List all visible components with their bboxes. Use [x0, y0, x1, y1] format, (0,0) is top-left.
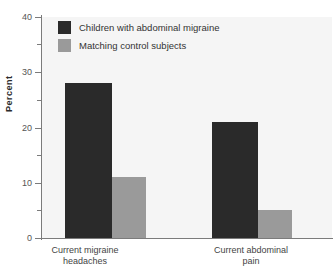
y-tick-30: [35, 72, 42, 73]
x-axis-line: [41, 238, 333, 239]
x-tick-label-group2-line2: pain: [196, 256, 306, 267]
x-tick-label-group2-line1: Current abdominal: [196, 245, 306, 256]
y-tick-label-10: 10: [6, 179, 32, 188]
bar-group1-series1: [65, 83, 112, 238]
bar-group1-series2: [112, 177, 146, 238]
y-tick-40: [35, 17, 42, 18]
legend-label-series1: Children with abdominal migraine: [79, 22, 219, 33]
y-tick-label-0: 0: [6, 234, 32, 243]
bar-group2-series2: [258, 210, 292, 238]
bar-group2-series1: [212, 122, 258, 238]
x-tick-label-group1-line2: headaches: [30, 256, 140, 267]
legend-swatch-icon-series2: [58, 39, 71, 52]
y-axis-title: Percent: [4, 75, 14, 112]
y-tick-20: [35, 128, 42, 129]
y-tick-label-20: 20: [6, 124, 32, 133]
y-tick-10: [35, 183, 42, 184]
legend-swatch-icon-series1: [58, 21, 71, 34]
legend-item-series1: Children with abdominal migraine: [58, 19, 219, 36]
y-tick-minor-15: [37, 155, 42, 156]
legend-item-series2: Matching control subjects: [58, 37, 219, 54]
y-tick-minor-35: [37, 44, 42, 45]
y-tick-minor-25: [37, 100, 42, 101]
legend: Children with abdominal migraine Matchin…: [58, 19, 219, 55]
y-tick-0: [35, 238, 42, 239]
y-tick-minor-5: [37, 210, 42, 211]
y-tick-label-40: 40: [6, 13, 32, 22]
x-tick-label-group2: Current abdominal pain: [196, 245, 306, 267]
x-tick-label-group1-line1: Current migraine: [30, 245, 140, 256]
x-tick-label-group1: Current migraine headaches: [30, 245, 140, 267]
bar-chart: 40 30 20 10 0 Percent Children with abdo…: [0, 0, 336, 280]
legend-label-series2: Matching control subjects: [79, 40, 186, 51]
